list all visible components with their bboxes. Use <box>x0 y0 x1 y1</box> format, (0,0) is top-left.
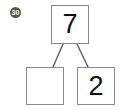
part-right-value: 2 <box>88 71 103 102</box>
whole-box: 7 <box>51 5 89 44</box>
part-left-box[interactable] <box>26 67 64 105</box>
part-right-box: 2 <box>77 67 115 105</box>
whole-value: 7 <box>62 9 77 40</box>
